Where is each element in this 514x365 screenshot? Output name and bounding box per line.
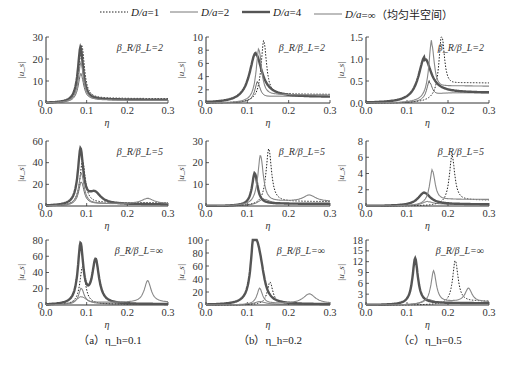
svg-text:18: 18 — [353, 235, 364, 246]
panel-a-row1: 01020300.00.10.20.3η|u_s|β_R/β_L=2 — [16, 32, 175, 129]
svg-text:0.2: 0.2 — [121, 307, 134, 318]
svg-text:0.2: 0.2 — [282, 307, 295, 318]
svg-text:0.3: 0.3 — [482, 208, 495, 219]
svg-text:0.5: 0.5 — [350, 76, 363, 87]
svg-text:40: 40 — [33, 267, 44, 278]
svg-text:0.2: 0.2 — [121, 208, 134, 219]
svg-text:0.2: 0.2 — [441, 105, 454, 116]
svg-text:η: η — [105, 319, 110, 330]
series-line — [366, 170, 489, 206]
svg-text:|u_s|: |u_s| — [16, 165, 26, 182]
svg-text:20: 20 — [193, 157, 204, 168]
svg-text:0.0: 0.0 — [359, 105, 372, 116]
svg-text:2: 2 — [358, 184, 363, 195]
svg-text:β_R/β_L=5: β_R/β_L=5 — [278, 146, 325, 157]
svg-text:4: 4 — [358, 168, 364, 179]
svg-text:η: η — [266, 117, 271, 128]
svg-text:20: 20 — [193, 287, 204, 298]
svg-text:0.2: 0.2 — [282, 105, 295, 116]
svg-text:0.1: 0.1 — [241, 208, 254, 219]
svg-text:β_R/β_L=∞: β_R/β_L=∞ — [276, 245, 325, 256]
svg-text:0.1: 0.1 — [400, 105, 413, 116]
svg-text:10: 10 — [33, 76, 44, 87]
svg-text:0.0: 0.0 — [359, 307, 372, 318]
svg-text:β_R/β_L=5: β_R/β_L=5 — [116, 146, 163, 157]
svg-text:60: 60 — [193, 261, 204, 272]
svg-text:β_R/β_L=5: β_R/β_L=5 — [437, 146, 484, 157]
panel-c-row1: 0.00.51.01.50.00.10.20.3η|u_s|β_R/β_L=2 — [336, 32, 496, 129]
svg-text:|u_s|: |u_s| — [16, 61, 26, 78]
svg-text:40: 40 — [33, 157, 44, 168]
series-line — [46, 47, 168, 102]
svg-text:0.0: 0.0 — [199, 307, 212, 318]
caption-c: （c）η_h=0.5 — [350, 331, 510, 347]
svg-text:|u_s|: |u_s| — [176, 61, 186, 78]
svg-text:0.1: 0.1 — [80, 105, 93, 116]
svg-text:1.5: 1.5 — [350, 32, 363, 43]
svg-text:4: 4 — [198, 71, 204, 82]
svg-text:0.0: 0.0 — [39, 307, 52, 318]
svg-text:0.3: 0.3 — [482, 307, 495, 318]
svg-text:30: 30 — [33, 32, 44, 43]
svg-text:20: 20 — [33, 54, 44, 65]
svg-text:|u_s|: |u_s| — [336, 264, 346, 281]
svg-text:0.1: 0.1 — [400, 307, 413, 318]
svg-text:8: 8 — [358, 136, 363, 147]
svg-text:40: 40 — [193, 274, 204, 285]
caption-b: （b）η_h=0.2 — [190, 331, 350, 347]
svg-text:0.0: 0.0 — [199, 208, 212, 219]
svg-text:0.2: 0.2 — [441, 307, 454, 318]
svg-text:1.0: 1.0 — [350, 54, 363, 65]
svg-text:3: 3 — [358, 289, 363, 300]
svg-text:0.0: 0.0 — [39, 105, 52, 116]
svg-text:0.1: 0.1 — [80, 208, 93, 219]
svg-text:β_R/β_L=∞: β_R/β_L=∞ — [435, 245, 484, 256]
svg-text:6: 6 — [198, 58, 203, 69]
svg-text:12: 12 — [353, 256, 364, 267]
series-line — [206, 156, 330, 206]
panel-b-row2: 01020300.00.10.20.3η|u_s|β_R/β_L=5 — [176, 136, 337, 232]
svg-text:0.3: 0.3 — [323, 208, 336, 219]
series-line — [366, 155, 489, 206]
svg-text:10: 10 — [193, 179, 204, 190]
svg-text:0.3: 0.3 — [161, 208, 174, 219]
svg-text:η: η — [425, 220, 430, 231]
svg-text:|u_s|: |u_s| — [16, 264, 26, 281]
svg-text:0.0: 0.0 — [359, 208, 372, 219]
svg-text:20: 20 — [33, 283, 44, 294]
panel-c-row2: 024680.00.10.20.3η|u_s|β_R/β_L=5 — [336, 136, 496, 232]
svg-text:15: 15 — [353, 245, 364, 256]
svg-text:60: 60 — [33, 251, 44, 262]
svg-text:80: 80 — [33, 235, 44, 246]
svg-text:|u_s|: |u_s| — [336, 61, 346, 78]
svg-text:β_R/β_L=2: β_R/β_L=2 — [116, 42, 163, 53]
svg-text:0.1: 0.1 — [241, 307, 254, 318]
svg-text:η: η — [425, 319, 430, 330]
svg-text:80: 80 — [193, 248, 204, 259]
series-line — [206, 149, 330, 206]
svg-text:η: η — [105, 220, 110, 231]
svg-text:0.2: 0.2 — [441, 208, 454, 219]
panel-c-row3: 03691215180.00.10.20.3η|u_s|β_R/β_L=∞ — [336, 235, 496, 331]
panel-a-row2: 02040600.00.10.20.3η|u_s|β_R/β_L=5 — [16, 136, 175, 232]
svg-text:0.3: 0.3 — [323, 105, 336, 116]
svg-text:β_R/β_L=2: β_R/β_L=2 — [278, 42, 325, 53]
svg-text:0.0: 0.0 — [39, 208, 52, 219]
series-line — [366, 261, 489, 305]
svg-text:η: η — [266, 319, 271, 330]
svg-text:100: 100 — [187, 235, 203, 246]
svg-text:0.2: 0.2 — [121, 105, 134, 116]
svg-text:0.1: 0.1 — [241, 105, 254, 116]
svg-text:6: 6 — [358, 278, 363, 289]
figure-panels: 01020300.00.10.20.3η|u_s|β_R/β_L=2024681… — [0, 0, 514, 365]
svg-text:30: 30 — [193, 136, 204, 147]
svg-text:0.2: 0.2 — [282, 208, 295, 219]
svg-text:0.3: 0.3 — [161, 307, 174, 318]
svg-text:20: 20 — [33, 179, 44, 190]
svg-text:0.3: 0.3 — [323, 307, 336, 318]
series-line — [46, 63, 168, 103]
svg-text:9: 9 — [358, 267, 363, 278]
svg-text:0.0: 0.0 — [199, 105, 212, 116]
svg-text:2: 2 — [198, 84, 203, 95]
svg-text:η: η — [105, 117, 110, 128]
